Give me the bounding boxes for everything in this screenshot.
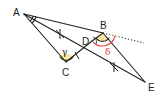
equal-mark-ae-2: [110, 62, 118, 72]
label-point-d: D: [82, 36, 89, 47]
label-point-c: C: [62, 67, 69, 78]
equal-mark-ae-1: [56, 29, 64, 39]
label-angle-delta: δ: [105, 47, 110, 57]
segment-ae: [24, 14, 145, 82]
label-angle-gamma: γ: [62, 47, 67, 57]
segment-be: [103, 33, 145, 82]
label-point-a: A: [13, 7, 20, 18]
label-point-e: E: [148, 82, 155, 93]
label-point-b: B: [100, 20, 107, 31]
geometry-diagram: A B C D E γ δ: [0, 0, 163, 95]
